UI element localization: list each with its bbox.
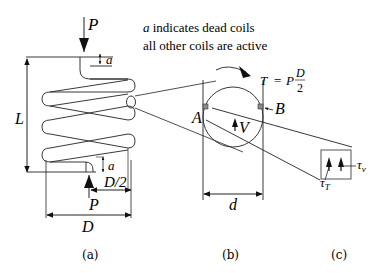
spring-diagram: P a L a D/2 P D (a) a indicates dead coi… xyxy=(0,0,381,273)
torque-numerator: D xyxy=(295,66,305,80)
projection-lines xyxy=(135,81,243,152)
stress-element-box xyxy=(321,150,351,179)
label-point-a: A xyxy=(191,109,202,126)
label-tau-t: τT xyxy=(320,175,331,192)
label-length: L xyxy=(14,110,24,127)
torque-p: P xyxy=(285,73,294,88)
wire-cross-section xyxy=(203,87,263,147)
caption-b: (b) xyxy=(222,248,239,262)
label-tau-v: τv xyxy=(357,157,366,174)
caption-a: (a) xyxy=(82,248,99,262)
arrowhead-down-icon xyxy=(79,38,89,52)
torque-arrowhead-icon xyxy=(239,66,251,78)
panel-c-stress-element xyxy=(321,150,356,180)
label-half-diameter: D/2 xyxy=(103,174,127,190)
arrowhead-up-icon xyxy=(84,175,94,188)
label-load-bottom: P xyxy=(88,196,99,213)
label-wire-diameter: d xyxy=(229,196,238,213)
coil-bottom xyxy=(50,162,93,172)
point-b-marker xyxy=(258,104,263,109)
caption-c: (c) xyxy=(331,248,347,262)
torque-denominator: 2 xyxy=(297,81,303,95)
label-dead-coil-top: a xyxy=(106,52,113,67)
note-line-2: all other coils are active xyxy=(143,38,267,53)
label-shear-force: V xyxy=(239,119,251,136)
label-dead-coil-bottom: a xyxy=(108,158,115,173)
torque-equals: = xyxy=(274,73,281,88)
label-load-top: P xyxy=(87,15,98,34)
torque-label: T xyxy=(260,73,268,88)
point-a-marker xyxy=(203,104,208,109)
label-point-b: B xyxy=(275,100,285,117)
label-diameter: D xyxy=(81,218,94,235)
note-line-1: a indicates dead coils xyxy=(143,20,255,35)
note-line-1-text: indicates dead coils xyxy=(150,20,255,35)
